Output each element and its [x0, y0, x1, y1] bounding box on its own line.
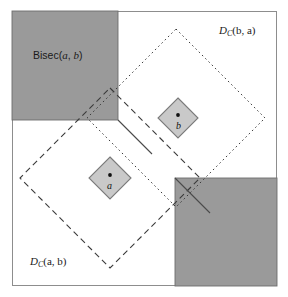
distance-region-dc-b-a-label: DC(b, a)	[219, 25, 256, 38]
site-a-label: a	[107, 180, 112, 191]
bisector-label-prefix: Bisec(	[33, 49, 62, 61]
bisector-label: Bisec(a, b)	[33, 50, 83, 61]
site-b-label: b	[176, 120, 181, 131]
dc-ba-label-main: D	[219, 24, 227, 36]
site-a-point	[108, 173, 112, 177]
site-b-point	[176, 113, 180, 117]
bisector-region-lower-right	[175, 178, 277, 286]
dc-ab-label-args: (a, b)	[43, 255, 66, 267]
dc-ab-label-main: D	[30, 255, 38, 267]
figure-canvas	[0, 0, 288, 297]
bisector-label-suffix: )	[79, 49, 83, 61]
distance-region-dc-a-b-label: DC(a, b)	[30, 256, 67, 269]
bisector-region-upper-left	[12, 11, 118, 120]
dc-ba-label-args: (b, a)	[232, 24, 255, 36]
convex-bisector-figure: Bisec(a, b) DC(b, a) DC(a, b) a b	[0, 0, 288, 297]
